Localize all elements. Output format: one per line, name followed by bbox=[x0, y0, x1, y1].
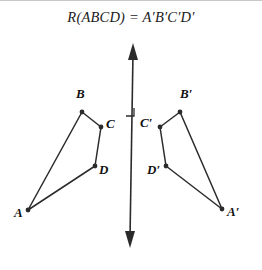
vertex-label-D: D bbox=[99, 162, 108, 178]
axis-arrow-down-icon bbox=[125, 231, 135, 248]
vertex-point-D bbox=[93, 164, 98, 169]
geometry-diagram bbox=[0, 0, 262, 270]
reflection-figure: R(ABCD) = A′B′C′D′ ABCDA′B′C′D′ bbox=[0, 0, 262, 270]
vertex-label-A: A bbox=[14, 205, 23, 221]
vertex-label-Dprime: D′ bbox=[147, 162, 160, 178]
vertex-label-B: B bbox=[76, 86, 85, 102]
quadrilateral-ApBpCpDp-outline bbox=[160, 112, 222, 209]
vertex-point-C bbox=[99, 125, 104, 130]
vertex-point-A bbox=[26, 208, 31, 213]
reflection-axis-group bbox=[125, 43, 138, 248]
vertex-point-Aprime bbox=[220, 207, 225, 212]
vertex-label-Aprime: A′ bbox=[227, 204, 239, 220]
vertex-label-Bprime: B′ bbox=[180, 86, 192, 102]
quadrilateral-ABCD-outline bbox=[28, 112, 101, 210]
vertex-label-Cprime: C′ bbox=[140, 115, 152, 131]
reflection-axis-line bbox=[130, 53, 133, 238]
axis-arrow-up-icon bbox=[128, 43, 138, 60]
vertex-point-Dprime bbox=[164, 164, 169, 169]
vertex-point-Cprime bbox=[158, 125, 163, 130]
vertex-point-Bprime bbox=[178, 110, 183, 115]
vertex-label-C: C bbox=[106, 116, 115, 132]
vertex-point-B bbox=[80, 110, 85, 115]
